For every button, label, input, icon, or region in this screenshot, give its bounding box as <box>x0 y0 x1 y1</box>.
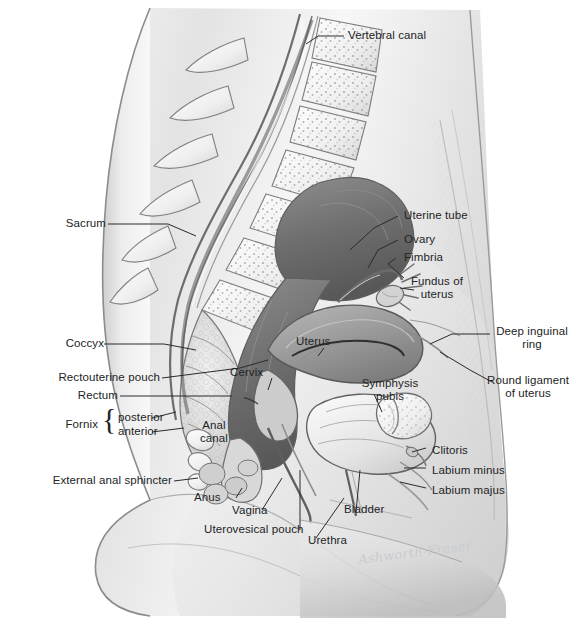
label-uterus: Uterus <box>296 335 330 348</box>
label-anal-canal: Anal canal <box>192 419 236 444</box>
label-fornix: Fornix <box>42 418 98 431</box>
label-sacrum: Sacrum <box>38 217 106 230</box>
fornix-brace: { <box>102 404 116 434</box>
anatomy-figure: Vertebral canal Sacrum Uterine tube Ovar… <box>0 0 573 621</box>
label-coccyx: Coccyx <box>38 337 104 350</box>
label-deep-inguinal-ring: Deep inguinal ring <box>492 325 572 350</box>
label-fimbria: Fimbria <box>404 251 443 264</box>
label-rectum: Rectum <box>48 389 118 402</box>
label-round-ligament-of-uterus: Round ligament of uterus <box>484 374 572 399</box>
label-uterovesical-pouch: Uterovesical pouch <box>204 523 304 536</box>
label-labium-majus: Labium majus <box>432 484 505 497</box>
label-uterine-tube: Uterine tube <box>404 209 468 222</box>
label-fundus-of-uterus: Fundus of uterus <box>398 275 476 300</box>
label-labium-minus: Labium minus <box>432 464 505 477</box>
label-ovary: Ovary <box>404 233 435 246</box>
label-vertebral-canal: Vertebral canal <box>348 29 426 42</box>
label-clitoris: Clitoris <box>432 444 468 457</box>
label-fornix-posterior: posterior <box>118 411 164 424</box>
label-external-anal-sphincter: External anal sphincter <box>20 474 172 487</box>
label-fornix-anterior: anterior <box>118 425 158 438</box>
label-vagina: Vagina <box>232 504 268 517</box>
label-cervix: Cervix <box>230 366 263 379</box>
label-rectouterine-pouch: Rectouterine pouch <box>14 371 160 384</box>
label-anus: Anus <box>194 491 221 504</box>
label-symphysis-pubis: Symphysis pubis <box>358 377 422 402</box>
label-urethra: Urethra <box>308 534 347 547</box>
label-bladder: Bladder <box>344 503 384 516</box>
